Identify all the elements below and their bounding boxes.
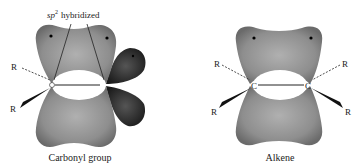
alkene-caption: Alkene — [240, 152, 320, 163]
carbon-atom-label: C — [251, 81, 257, 91]
substituent-r: R — [342, 59, 348, 69]
electron-dot — [252, 36, 255, 39]
substituent-r: R — [214, 59, 220, 69]
hybridization-label: sp2hybridized — [47, 9, 100, 20]
electron-dot — [132, 55, 134, 57]
carbon-atom-label: C — [305, 81, 311, 91]
orbital-diagram: R R sp2hybridized C C R R R R — [0, 0, 362, 168]
substituent-r: R — [211, 107, 217, 117]
electron-dot — [105, 36, 108, 39]
substituent-r: R — [10, 104, 16, 114]
carbonyl-caption: Carbonyl group — [30, 152, 130, 163]
electron-dot — [49, 34, 52, 37]
carbon-atom — [50, 83, 55, 88]
carbonyl-panel: R R sp2hybridized — [10, 9, 145, 147]
substituent-r: R — [345, 107, 351, 117]
alkene-panel: C C R R R R — [211, 27, 351, 146]
electron-dot — [309, 36, 312, 39]
substituent-r: R — [11, 62, 17, 72]
